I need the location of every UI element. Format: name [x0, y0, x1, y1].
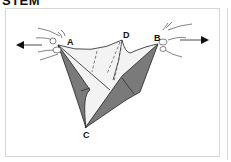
- arrow-left-icon: [16, 41, 42, 49]
- label-a: A: [67, 37, 74, 47]
- folding-diagram: A D B C: [0, 0, 231, 162]
- left-hand-icon: [36, 28, 65, 60]
- arrow-right-icon: [180, 36, 209, 44]
- right-hand-icon: [159, 22, 192, 57]
- label-c: C: [83, 130, 90, 140]
- label-d: D: [123, 30, 130, 40]
- label-b: B: [154, 33, 161, 43]
